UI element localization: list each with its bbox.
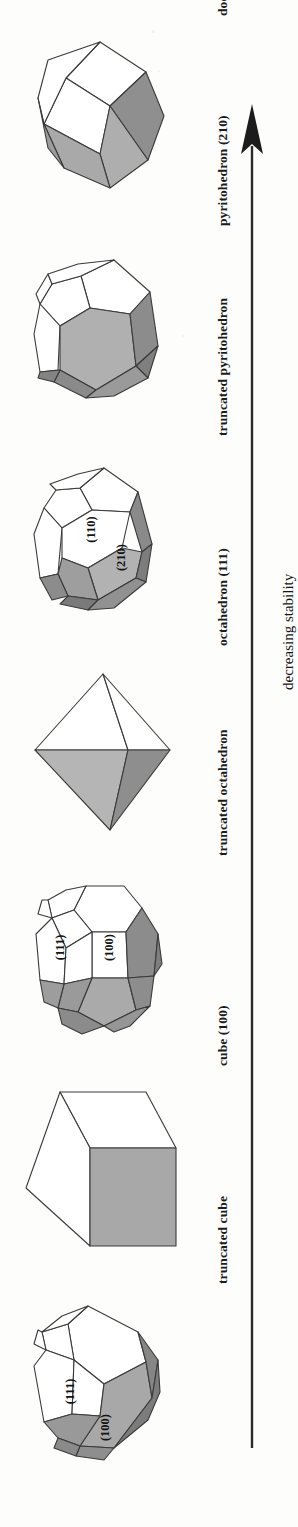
crystal-habit-figure: dodecahedron (110): [0, 0, 298, 1527]
face-label-111: (111): [63, 1379, 78, 1405]
face-label-100: (100): [98, 1414, 113, 1441]
pyritohedron-shape: [18, 230, 186, 426]
caption-pyritohedron: pyritohedron (210): [210, 16, 236, 226]
cube-shape: [18, 1070, 186, 1266]
shape-panel-truncated-cube: (111) (100) truncated cube: [0, 1280, 230, 1490]
face-label-100: (100): [102, 934, 117, 961]
shape-panel-dodecahedron: dodecahedron (110): [0, 12, 230, 222]
axis-label-decreasing-stability: decreasing stability: [277, 490, 298, 690]
shape-panel-octahedron: octahedron (111): [0, 642, 230, 852]
shape-panel-truncated-pyritohedron: (110) (210) truncated pyritohedron: [0, 432, 230, 642]
caption-dodecahedron: dodecahedron (110): [210, 0, 236, 16]
octahedron-shape: [18, 650, 186, 846]
caption-cube: cube (100): [210, 856, 236, 1066]
truncated-pyritohedron-shape: [18, 440, 186, 636]
shape-panel-pyritohedron: pyritohedron (210): [0, 222, 230, 432]
caption-truncated-cube: truncated cube: [210, 1074, 236, 1284]
caption-truncated-octahedron: truncated octahedron: [210, 646, 236, 856]
truncated-cube-shape: [18, 1288, 186, 1484]
caption-truncated-pyritohedron: truncated pyritohedron: [210, 226, 236, 436]
face-label-110: (110): [84, 516, 99, 542]
caption-octahedron: octahedron (111): [210, 436, 236, 646]
shape-panel-cube: cube (100): [0, 1062, 230, 1272]
face-label-210: (210): [114, 544, 129, 571]
stability-axis-arrow: [238, 100, 266, 1450]
shape-panel-truncated-octahedron: (111) (100) truncated octahedron: [0, 852, 230, 1062]
face-label-111: (111): [53, 935, 68, 961]
dodecahedron-shape: [18, 20, 186, 216]
